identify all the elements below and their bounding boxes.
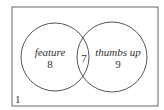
count-thumbs-up-only: 9: [92, 59, 144, 70]
count-feature-only: 8: [30, 59, 70, 70]
universe-count: 1: [15, 94, 23, 105]
set-label-feature: feature: [30, 47, 70, 58]
set-label-thumbs-up: thumbs up: [92, 47, 144, 58]
count-intersection: 7: [79, 53, 89, 64]
